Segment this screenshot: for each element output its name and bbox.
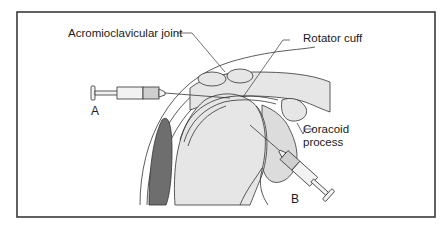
label-needle-a: A [91,104,99,118]
shoulder-anatomy [140,47,330,205]
syringe-a-tip [159,89,165,97]
humeral-head [174,94,267,205]
label-needle-b: B [291,192,299,206]
shoulder-injection-diagram: Acromioclavicular joint Rotator cuff Cor… [0,0,447,230]
syringe-b-plunger [311,179,329,195]
label-acromioclavicular-joint: Acromioclavicular joint [68,27,183,39]
label-coracoid-line1: Coracoid [303,123,349,135]
acromion-head [198,72,226,86]
syringe-a-plunger-cap [91,86,95,100]
syringe-a-barrel [117,87,143,99]
syringe-a-fluid [143,87,159,99]
label-rotator-cuff: Rotator cuff [303,32,363,44]
syringe-a-plunger [95,91,119,95]
label-coracoid-line2: process [303,136,344,148]
coracoid-process [281,98,306,121]
deltoid-dark-region [149,118,172,205]
clavicle-end [227,69,253,83]
